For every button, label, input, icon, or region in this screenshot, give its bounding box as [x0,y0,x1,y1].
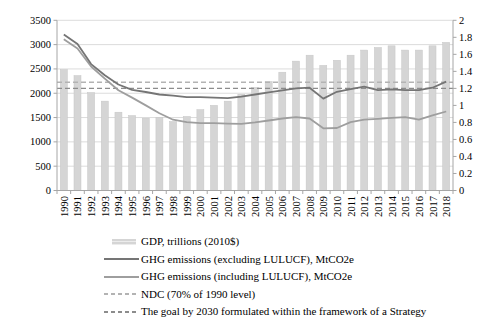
x-axis-year-label: 1996 [141,196,152,217]
chart-legend: GDP, trillions (2010$) GHG emissions (ex… [0,233,501,321]
left-axis-label: 3500 [30,15,51,26]
right-axis-label: 0.6 [459,134,472,145]
x-axis-year-label: 2002 [223,196,234,217]
legend-label-ghg-excluding: GHG emissions (excluding LULUCF), MtCO2e [141,254,354,265]
gdp-bar [265,82,272,191]
x-axis-year-label: 2000 [195,196,206,217]
x-axis-year-label: 2001 [209,196,220,217]
gdp-bar [129,116,136,191]
right-axis-label: 2 [459,15,464,26]
right-axis-label: 1.2 [459,83,472,94]
x-axis-year-label: 1995 [127,196,138,217]
goal-2030-dashed-swatch [104,311,139,313]
x-axis-year-label: 2007 [291,196,302,217]
right-axis-label: 0 [459,185,464,196]
x-axis-year-label: 1997 [154,196,165,217]
x-axis-year-label: 1998 [168,196,179,217]
x-axis-year-label: 2013 [373,196,384,217]
x-axis-year-label: 2006 [277,196,288,217]
gdp-bar [88,93,95,191]
gdp-bar [224,101,231,190]
gdp-bar [238,94,245,190]
gdp-bar [443,42,450,190]
gdp-bar [142,118,149,190]
left-axis-label: 1000 [30,136,51,147]
x-axis-year-label: 2005 [264,196,275,217]
gdp-bar [156,117,163,190]
legend-item-ghg-including: GHG emissions (including LULUCF), MtCO2e [0,268,501,286]
right-axis-label: 1.4 [459,66,473,77]
right-axis-label: 0.8 [459,117,472,128]
x-axis-year-label: 2010 [332,196,343,217]
gdp-bar [197,110,204,191]
left-axis-label: 2000 [30,88,51,99]
chart-plot-area: 050010001500200025003000350000.20.40.60.… [0,0,501,232]
right-axis: 00.20.40.60.811.21.41.61.82 [453,15,473,196]
left-axis-label: 0 [46,185,51,196]
x-axis-year-label: 2009 [318,196,329,217]
legend-item-ghg-excluding: GHG emissions (excluding LULUCF), MtCO2e [0,251,501,269]
legend-item-2030-goal: The goal by 2030 formulated within the f… [0,303,501,321]
legend-label-2030-goal: The goal by 2030 formulated within the f… [141,306,426,317]
gdp-bars [60,42,449,190]
x-axis-year-label: 2014 [387,195,398,217]
left-axis: 0500100015002000250030003500 [30,15,57,196]
left-axis-label: 3000 [30,39,51,50]
ghg-including-line-swatch [104,276,139,278]
gdp-bar [306,55,313,190]
x-axis-year-label: 1990 [59,196,70,217]
x-axis-year-label: 2011 [346,196,357,217]
russia-ghg-gdp-chart: 050010001500200025003000350000.20.40.60.… [0,0,501,330]
x-axis-year-label: 1993 [100,196,111,217]
x-axis-year-label: 2016 [414,196,425,217]
left-axis-label: 500 [35,161,51,172]
gdp-bar [402,50,409,190]
gdp-bar-swatch [112,239,136,245]
ndc-dashed-swatch [104,293,139,295]
x-axis: 1990199119921993199419951996199719981999… [57,191,453,218]
x-axis-year-label: 1991 [72,196,83,217]
gdp-bar [74,76,81,191]
gdp-bar [101,101,108,190]
right-axis-label: 0.4 [459,151,473,162]
x-axis-year-label: 2008 [305,196,316,217]
right-axis-label: 1.6 [459,49,472,60]
ghg-excluding-line-swatch [104,258,139,260]
gdp-bar [211,105,218,190]
legend-label-ndc: NDC (70% of 1990 level) [141,289,255,300]
x-axis-year-label: 1999 [182,196,193,217]
legend-item-gdp: GDP, trillions (2010$) [0,233,501,251]
x-axis-year-label: 2003 [236,196,247,217]
legend-label-gdp: GDP, trillions (2010$) [141,236,239,247]
x-axis-year-label: 1992 [86,196,97,217]
legend-label-ghg-including: GHG emissions (including LULUCF), MtCO2e [141,271,352,282]
left-axis-label: 1500 [30,112,51,123]
gdp-bar [429,46,436,191]
gdp-bar [170,122,177,191]
right-axis-label: 1.8 [459,32,472,43]
gdp-bar [115,112,122,190]
gdp-bar [183,116,190,190]
legend-item-ndc: NDC (70% of 1990 level) [0,286,501,304]
right-axis-label: 0.2 [459,168,472,179]
x-axis-year-label: 2015 [400,196,411,217]
x-axis-year-label: 2004 [250,195,261,217]
right-axis-label: 1 [459,100,464,111]
gdp-bar [333,60,340,190]
x-axis-year-label: 1994 [113,195,124,217]
x-axis-year-label: 2018 [441,196,452,217]
left-axis-label: 2500 [30,63,51,74]
x-axis-year-label: 2012 [359,196,370,217]
gdp-bar [292,61,299,190]
x-axis-year-label: 2017 [428,196,439,217]
gdp-bar [252,88,259,191]
